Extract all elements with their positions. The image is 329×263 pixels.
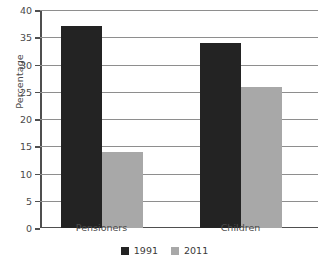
y-tick-label: 25 [20,86,32,97]
plot-area: 0510152025303540 [40,10,318,228]
category-label-pensioners: Pensioners [76,222,127,233]
bar-1991-pensioners [61,26,102,228]
bar-series-group [40,10,318,228]
legend-item-2011[interactable]: 2011 [171,246,208,256]
y-tick-label: 20 [20,114,32,125]
legend-label: 1991 [134,246,158,256]
legend-label: 2011 [184,246,208,256]
legend-swatch-icon [121,247,129,255]
y-tick-label: 40 [20,5,32,16]
bar-2011-children [241,87,282,228]
y-tick-label: 15 [20,141,32,152]
y-tick-label: 30 [20,59,32,70]
y-tick-mark [35,228,40,230]
y-tick-label: 0 [26,223,32,234]
y-tick-label: 35 [20,32,32,43]
legend-swatch-icon [171,247,179,255]
category-label-children: Children [221,222,261,233]
y-tick-label: 5 [26,195,32,206]
chart-legend: 19912011 [0,246,329,256]
legend-item-1991[interactable]: 1991 [121,246,158,256]
bar-2011-pensioners [102,152,143,228]
bar-1991-children [200,43,241,228]
y-tick-label: 10 [20,168,32,179]
bar-chart: Percentage 0510152025303540 PensionersCh… [0,0,329,263]
